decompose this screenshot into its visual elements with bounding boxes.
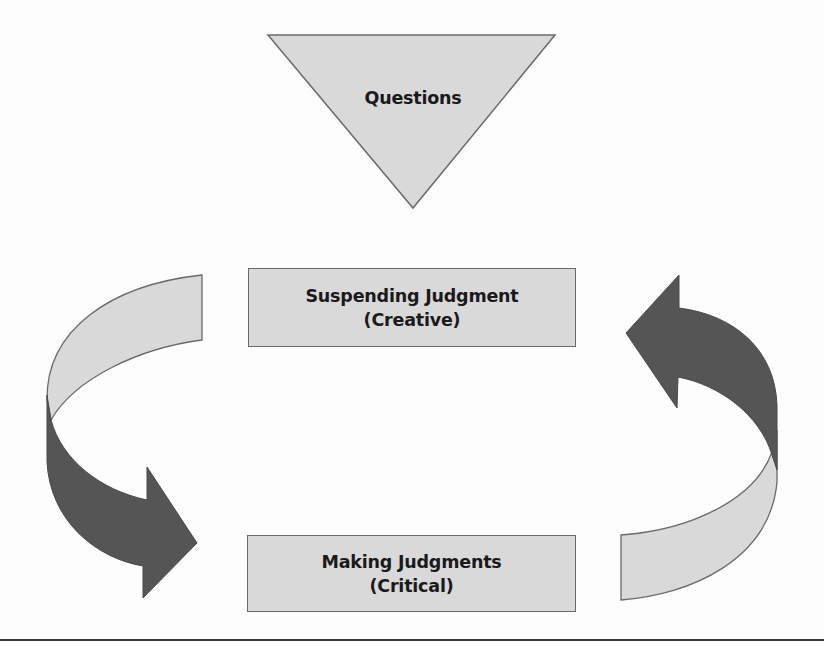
suspending-judgment-box: Suspending Judgment (Creative) <box>248 268 576 347</box>
making-judgments-title: Making Judgments <box>321 550 501 574</box>
left-arrow-light-band <box>47 275 202 420</box>
making-judgments-box: Making Judgments (Critical) <box>247 535 576 612</box>
judgment-cycle-diagram: Questions Suspending Judgment (Creative)… <box>0 0 824 646</box>
right-arrow-dark-head <box>626 275 777 470</box>
questions-label: Questions <box>313 86 513 110</box>
critical-subtitle: (Critical) <box>369 574 453 598</box>
suspending-judgment-title: Suspending Judgment <box>305 284 518 308</box>
right-arrow-light-band <box>621 430 777 600</box>
bottom-divider <box>0 639 824 641</box>
creative-subtitle: (Creative) <box>364 308 461 332</box>
left-arrow-dark-head <box>47 395 197 598</box>
questions-triangle <box>268 35 555 208</box>
